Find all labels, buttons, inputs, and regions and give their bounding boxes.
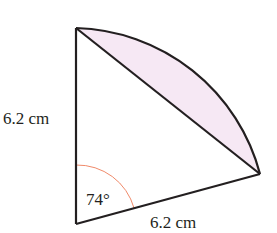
- diagram-canvas: 6.2 cm 6.2 cm 74°: [0, 0, 277, 233]
- left-side-label: 6.2 cm: [3, 109, 49, 128]
- bottom-side-label: 6.2 cm: [150, 213, 196, 232]
- sector-diagram: 6.2 cm 6.2 cm 74°: [0, 0, 277, 233]
- angle-label: 74°: [86, 190, 110, 209]
- chord: [76, 28, 260, 174]
